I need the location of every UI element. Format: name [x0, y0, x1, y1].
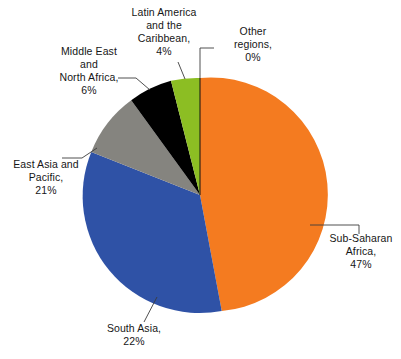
pie-label-middle-east-north-africa: Middle East and North Africa, 6%	[46, 45, 132, 97]
leader-line-latin-america	[178, 62, 185, 79]
pie-label-east-asia-pacific: East Asia and Pacific, 21%	[2, 158, 90, 197]
pie-label-other-regions: Other regions, 0%	[220, 25, 286, 64]
pie-label-sub-saharan-africa: Sub-Saharan Africa, 47%	[325, 232, 397, 271]
pie-label-south-asia: South Asia, 22%	[86, 322, 182, 348]
pie-slice-sub-saharan-africa[interactable]	[200, 77, 328, 310]
pie-chart-figure: Latin America and the Caribbean, 4% Othe…	[0, 0, 401, 359]
